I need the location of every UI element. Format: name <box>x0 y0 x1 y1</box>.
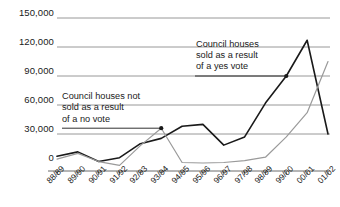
annotation-endpoint-dot <box>284 74 288 78</box>
y-axis-tick-label: 150,000 <box>19 8 54 18</box>
annotation-yes-vote-line-1: Council houses <box>196 39 259 50</box>
annotation-endpoint-dot <box>159 126 163 130</box>
annotation-no-vote-line-3: of a no vote <box>62 114 140 125</box>
y-axis-tick-label: 120,000 <box>19 37 54 47</box>
annotation-no-vote: Council houses not sold as a result of a… <box>62 91 140 125</box>
line-chart: 030,00060,00090,000120,000150,000 88/898… <box>0 0 340 207</box>
y-axis-tick-label: 30,000 <box>24 124 54 134</box>
y-axis-tick-label: 90,000 <box>24 66 54 76</box>
annotation-yes-vote-line-2: sold as a result <box>196 50 259 61</box>
annotation-yes-vote-line-3: of a yes vote <box>196 61 259 72</box>
annotation-yes-vote: Council houses sold as a result of a yes… <box>196 39 259 73</box>
annotation-no-vote-line-1: Council houses not <box>62 91 140 102</box>
y-axis-tick-label: 0 <box>49 153 54 163</box>
annotation-no-vote-line-2: sold as a result <box>62 102 140 113</box>
y-axis-tick-label: 60,000 <box>24 95 54 105</box>
